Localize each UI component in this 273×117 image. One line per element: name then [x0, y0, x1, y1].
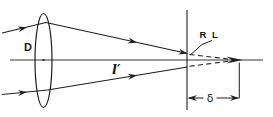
arrowhead-incoming-top: [18, 24, 28, 32]
dashed-ray-top: [190, 55, 234, 60]
arrowhead-refracted-bottom: [128, 72, 138, 79]
label-defocus-distance: δ: [207, 92, 214, 105]
dashed-ray-bottom: [190, 61, 234, 67]
arrowhead-refracted-top: [128, 38, 138, 46]
refracted-ray-top: [46, 23, 188, 54]
label-image-distance: l′: [112, 62, 121, 77]
ray-diagram-canvas: D l′ R L δ: [0, 0, 273, 117]
label-lens-diameter: D: [24, 41, 32, 53]
label-blur-point: R L: [200, 29, 220, 40]
lens-center-dot: [42, 59, 44, 61]
optics-ray-diagram: D l′ R L δ: [0, 0, 273, 117]
blur-label-leader-line: [191, 41, 213, 55]
